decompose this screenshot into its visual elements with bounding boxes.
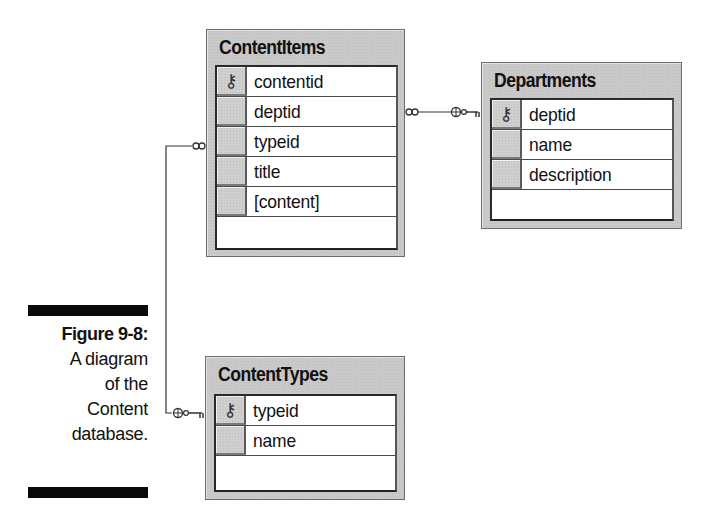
row-selector	[217, 187, 247, 216]
field-name: deptid	[529, 104, 576, 126]
field-row[interactable]: title	[217, 157, 396, 187]
field-name: title	[254, 161, 280, 183]
one-key-icon	[452, 108, 480, 118]
many-infinity-icon	[193, 143, 205, 149]
field-row[interactable]: description	[492, 160, 672, 190]
field-list: ⚷ typeid name	[214, 394, 397, 492]
table-title: Departments	[494, 69, 596, 92]
field-name: typeid	[254, 131, 300, 153]
field-row[interactable]: ⚷ deptid	[492, 100, 672, 130]
field-name: [content]	[254, 191, 319, 213]
row-selector	[217, 97, 247, 126]
key-icon: ⚷	[216, 396, 246, 425]
field-row[interactable]: name	[216, 426, 395, 456]
field-name: name	[253, 430, 296, 452]
table-contentitems[interactable]: ContentItems ⚷ contentid deptid typeid t…	[206, 29, 405, 257]
relationship-contentitems-departments[interactable]	[406, 108, 479, 118]
field-name: typeid	[253, 400, 299, 422]
key-icon: ⚷	[492, 100, 522, 129]
key-icon: ⚷	[217, 67, 247, 96]
many-infinity-icon	[406, 109, 418, 115]
one-key-icon	[174, 409, 204, 419]
field-row[interactable]: deptid	[217, 97, 396, 127]
table-contenttypes[interactable]: ContentTypes ⚷ typeid name	[205, 356, 405, 500]
field-row[interactable]: typeid	[217, 127, 396, 157]
table-title: ContentTypes	[218, 363, 328, 386]
field-row[interactable]: name	[492, 130, 672, 160]
field-list: ⚷ contentid deptid typeid title [content…	[215, 65, 398, 250]
row-selector	[217, 127, 247, 156]
field-list: ⚷ deptid name description	[490, 98, 674, 221]
row-selector	[216, 426, 246, 455]
row-selector	[492, 130, 522, 159]
row-selector	[217, 157, 247, 186]
field-row[interactable]: [content]	[217, 187, 396, 217]
field-name: description	[529, 164, 612, 186]
row-selector	[492, 160, 522, 189]
field-name: name	[529, 134, 572, 156]
field-name: contentid	[254, 71, 323, 93]
table-departments[interactable]: Departments ⚷ deptid name description	[481, 62, 682, 229]
field-name: deptid	[254, 101, 301, 123]
field-row[interactable]: ⚷ typeid	[216, 396, 395, 426]
relationship-contentitems-contenttypes[interactable]	[166, 143, 205, 418]
table-title: ContentItems	[219, 36, 325, 59]
field-row[interactable]: ⚷ contentid	[217, 67, 396, 97]
